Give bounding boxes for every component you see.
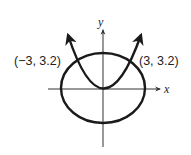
ellipse-parabola-diagram: y x (−3, 3.2) (3, 3.2) [0,0,191,155]
y-axis-label: y [97,15,104,29]
intersection-label-left: (−3, 3.2) [14,54,61,68]
parabola-curve [68,35,141,89]
x-axis-label: x [163,82,170,96]
intersection-label-right: (3, 3.2) [139,54,179,68]
